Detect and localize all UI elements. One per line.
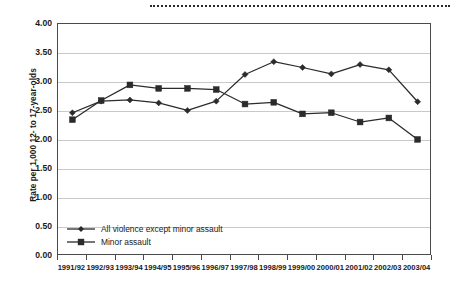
y-tick-label: 0.00 — [6, 250, 52, 260]
x-tick-label: 2003/04 — [403, 263, 430, 272]
chart-legend: All violence except minor assaultMinor a… — [66, 222, 266, 250]
y-tick-label: 4.00 — [6, 18, 52, 28]
data-point-square — [213, 87, 219, 93]
x-tick — [230, 255, 231, 260]
x-tick — [201, 255, 202, 260]
x-tick-label: 1996/97 — [201, 263, 228, 272]
top-dotted-rule — [150, 5, 450, 7]
x-tick-label: 1992/93 — [86, 263, 113, 272]
data-point-square — [69, 117, 75, 123]
data-point-diamond — [69, 110, 75, 116]
x-tick-label: 1999/00 — [288, 263, 315, 272]
x-tick — [258, 255, 259, 260]
data-point-square — [328, 110, 334, 116]
y-axis-tick-labels: 4.003.503.002.502.001.501.000.500.00 — [0, 23, 52, 255]
x-tick — [316, 255, 317, 260]
data-point-square — [156, 85, 162, 91]
x-axis-tick-labels: 1991/921992/931993/941994/951995/961996/… — [57, 263, 431, 281]
data-point-square — [242, 101, 248, 107]
data-point-diamond — [271, 59, 277, 65]
y-tick-label: 3.00 — [6, 76, 52, 86]
series-line — [72, 85, 417, 140]
x-tick-label: 1991/92 — [58, 263, 85, 272]
data-point-diamond — [357, 62, 363, 68]
legend-item: Minor assault — [66, 235, 266, 248]
data-point-square — [357, 119, 363, 125]
x-tick — [431, 255, 432, 260]
data-point-square — [271, 99, 277, 105]
x-tick — [172, 255, 173, 260]
x-tick-label: 1993/94 — [115, 263, 142, 272]
x-tick-label: 2001/02 — [345, 263, 372, 272]
legend-label: Minor assault — [101, 237, 151, 247]
data-point-square — [127, 82, 133, 88]
data-point-square — [185, 85, 191, 91]
x-tick-label: 1994/95 — [144, 263, 171, 272]
y-tick-label: 2.50 — [6, 105, 52, 115]
y-tick-label: 0.50 — [6, 221, 52, 231]
chart-figure: Rate per 1,000 12- to 17-year-olds 4.003… — [0, 0, 453, 288]
x-tick — [287, 255, 288, 260]
series-minor-assault — [69, 82, 420, 142]
x-tick-label: 1998/99 — [259, 263, 286, 272]
data-point-diamond — [156, 100, 162, 106]
x-tick — [373, 255, 374, 260]
x-axis-ticks — [57, 255, 431, 261]
x-tick-label: 2000/01 — [317, 263, 344, 272]
y-tick-label: 2.00 — [6, 134, 52, 144]
data-point-diamond — [300, 65, 306, 71]
y-tick-label: 1.00 — [6, 192, 52, 202]
data-point-diamond — [127, 97, 133, 103]
data-point-diamond — [328, 71, 334, 77]
legend-diamond-icon — [66, 223, 96, 235]
legend-square-icon — [66, 236, 96, 248]
legend-label: All violence except minor assault — [101, 224, 223, 234]
data-point-square — [300, 111, 306, 117]
data-point-diamond — [184, 107, 190, 113]
x-tick — [115, 255, 116, 260]
x-tick — [402, 255, 403, 260]
x-tick — [86, 255, 87, 260]
x-tick — [143, 255, 144, 260]
y-tick-label: 1.50 — [6, 163, 52, 173]
x-tick-label: 1995/96 — [173, 263, 200, 272]
x-tick-label: 2002/03 — [374, 263, 401, 272]
data-point-square — [415, 137, 421, 143]
data-point-square — [386, 115, 392, 121]
plot-area — [57, 23, 431, 255]
data-point-square — [98, 98, 104, 104]
y-tick-label: 3.50 — [6, 47, 52, 57]
x-tick — [345, 255, 346, 260]
x-tick-label: 1997/98 — [230, 263, 257, 272]
x-tick — [57, 255, 58, 260]
legend-item: All violence except minor assault — [66, 222, 266, 235]
